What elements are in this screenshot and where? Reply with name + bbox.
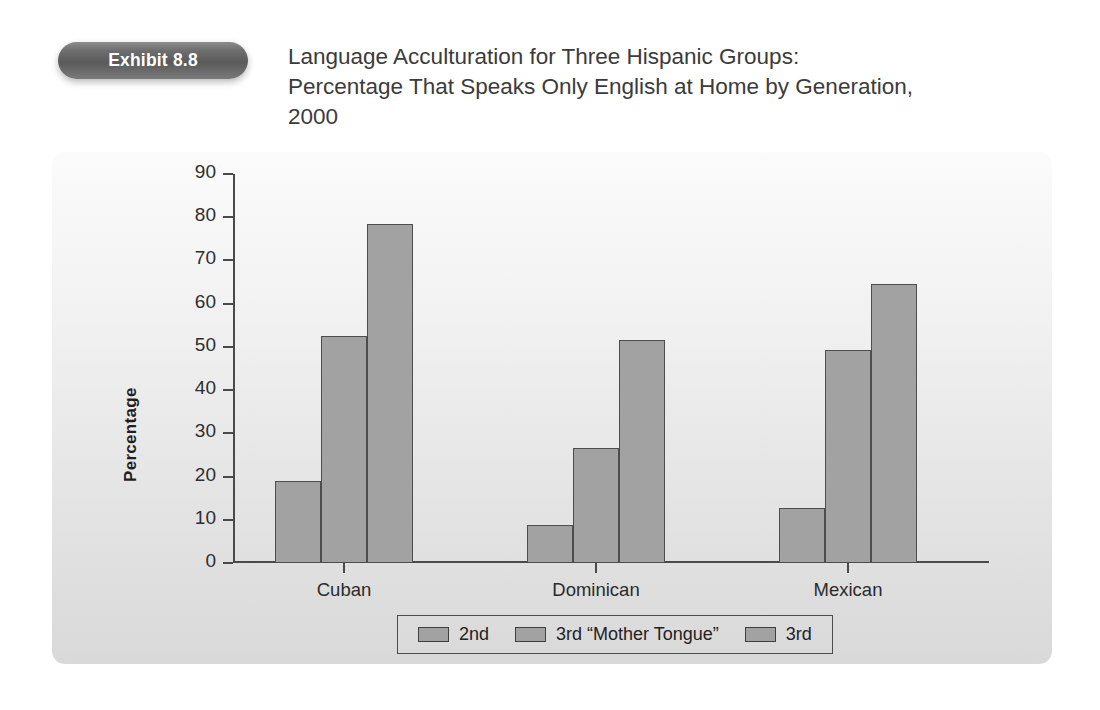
bar-mexican-3rd-mother-tongue- bbox=[825, 350, 871, 563]
exhibit-badge: Exhibit 8.8 bbox=[58, 42, 248, 79]
legend-label: 3rd bbox=[786, 624, 812, 645]
x-axis-tick bbox=[847, 563, 849, 573]
y-axis-tick: 90 bbox=[223, 173, 233, 175]
legend-label: 2nd bbox=[459, 624, 489, 645]
bar-cuban-3rd bbox=[367, 224, 413, 563]
legend-swatch-icon bbox=[745, 627, 776, 642]
bar-dominican-3rd bbox=[619, 340, 665, 563]
bar-mexican-2nd bbox=[779, 508, 825, 563]
y-axis-tick-label: 80 bbox=[195, 204, 216, 226]
y-axis-tick: 40 bbox=[223, 389, 233, 391]
bar-mexican-3rd bbox=[871, 284, 917, 563]
legend-swatch-icon bbox=[418, 627, 449, 642]
legend-item[interactable]: 3rd “Mother Tongue” bbox=[515, 624, 719, 645]
x-axis-label-mexican: Mexican bbox=[814, 579, 883, 601]
legend-label: 3rd “Mother Tongue” bbox=[556, 624, 719, 645]
bar-dominican-3rd-mother-tongue- bbox=[573, 448, 619, 563]
y-axis-tick-label: 20 bbox=[195, 464, 216, 486]
page-title: Language Acculturation for Three Hispani… bbox=[288, 42, 988, 132]
bar-cuban-3rd-mother-tongue- bbox=[321, 336, 367, 563]
legend-item[interactable]: 2nd bbox=[418, 624, 489, 645]
y-axis-tick: 60 bbox=[223, 303, 233, 305]
y-axis-tick-label: 70 bbox=[195, 247, 216, 269]
bar-cuban-2nd bbox=[275, 481, 321, 563]
y-axis-tick-label: 10 bbox=[195, 507, 216, 529]
y-axis-tick: 10 bbox=[223, 519, 233, 521]
y-axis-tick-label: 50 bbox=[195, 334, 216, 356]
y-axis-tick: 20 bbox=[223, 476, 233, 478]
legend-item[interactable]: 3rd bbox=[745, 624, 812, 645]
x-axis-tick bbox=[343, 563, 345, 573]
x-axis-label-cuban: Cuban bbox=[317, 579, 372, 601]
exhibit-badge-label: Exhibit 8.8 bbox=[108, 50, 198, 71]
y-axis-tick: 50 bbox=[223, 346, 233, 348]
y-axis-tick-label: 90 bbox=[195, 161, 216, 183]
y-axis-tick: 0 bbox=[223, 562, 233, 564]
y-axis-tick-label: 60 bbox=[195, 291, 216, 313]
y-axis-line bbox=[233, 174, 235, 563]
x-axis-label-dominican: Dominican bbox=[552, 579, 639, 601]
chart-legend: 2nd3rd “Mother Tongue”3rd bbox=[397, 615, 833, 654]
y-axis-title: Percentage bbox=[121, 387, 141, 482]
y-axis-tick: 30 bbox=[223, 432, 233, 434]
bar-dominican-2nd bbox=[527, 525, 573, 563]
y-axis-tick: 70 bbox=[223, 259, 233, 261]
legend-swatch-icon bbox=[515, 627, 546, 642]
y-axis-tick-label: 40 bbox=[195, 377, 216, 399]
y-axis-tick-label: 0 bbox=[205, 550, 216, 572]
chart-panel: Percentage 0102030405060708090 CubanDomi… bbox=[52, 152, 1052, 664]
y-axis-tick-label: 30 bbox=[195, 420, 216, 442]
plot-area: 0102030405060708090 CubanDominicanMexica… bbox=[233, 174, 989, 563]
x-axis-tick bbox=[595, 563, 597, 573]
y-axis-tick: 80 bbox=[223, 216, 233, 218]
